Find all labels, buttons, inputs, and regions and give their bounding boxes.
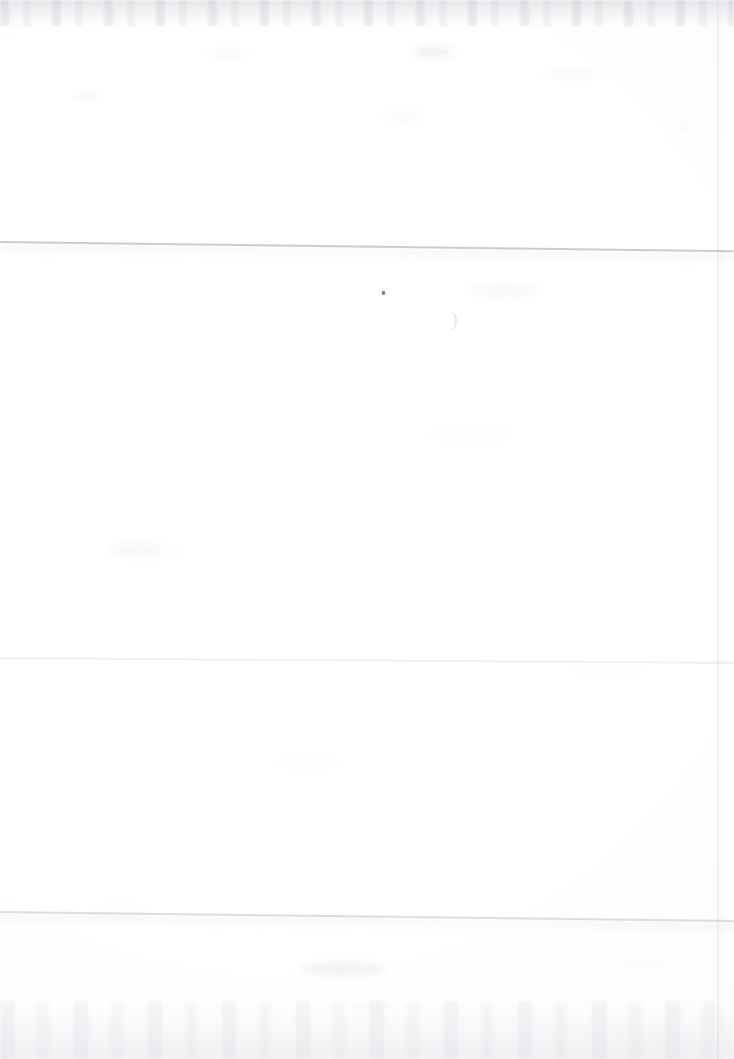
faint-smear-lower [300, 962, 386, 976]
top-edge-smudge [0, 0, 734, 26]
page-right-edge [717, 0, 734, 1059]
bottom-edge-smudge [0, 1001, 734, 1059]
faint-smear-upper [412, 46, 454, 58]
faint-smear-mid-left [108, 545, 162, 554]
scanned-page: ) [0, 0, 734, 1059]
ink-speck [382, 291, 385, 295]
bleed-through-paren-mark: ) [451, 309, 458, 329]
faint-smear-mid-right [470, 285, 540, 296]
paper-grain-texture [0, 0, 734, 1059]
